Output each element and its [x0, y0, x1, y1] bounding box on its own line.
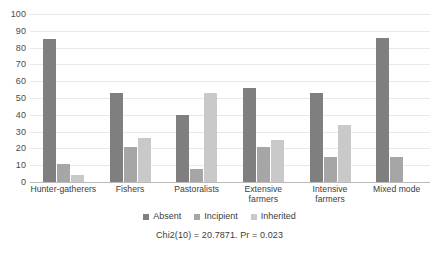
bar: [257, 147, 270, 182]
gridline: 0: [30, 182, 430, 183]
x-axis-tick-label: Hunter-gatherers: [30, 184, 97, 204]
legend-item: Incipient: [194, 212, 238, 221]
bar: [271, 140, 284, 182]
bar-groups: [30, 14, 430, 182]
legend-label: Absent: [153, 212, 181, 221]
legend-item: Absent: [143, 212, 181, 221]
y-axis-tick-label: 90: [16, 26, 26, 35]
bar: [310, 93, 323, 182]
bar: [390, 157, 403, 182]
bar-group: [97, 14, 164, 182]
y-axis-tick-label: 60: [16, 77, 26, 86]
legend-swatch: [251, 214, 257, 220]
bar-group: [297, 14, 364, 182]
y-axis-tick-label: 100: [11, 10, 26, 19]
bar: [243, 88, 256, 182]
x-axis-tick-label: Intensivefarmers: [297, 184, 364, 204]
legend-swatch: [194, 214, 200, 220]
y-axis-tick-label: 40: [16, 110, 26, 119]
x-axis-tick-label: Pastoralists: [163, 184, 230, 204]
bar-group: [30, 14, 97, 182]
bar-chart: 0102030405060708090100 Hunter-gatherersF…: [0, 0, 439, 260]
bar: [338, 125, 351, 182]
y-axis-tick-label: 30: [16, 127, 26, 136]
y-axis-tick-label: 70: [16, 60, 26, 69]
y-axis-tick-label: 50: [16, 94, 26, 103]
chart-annotation: Chi2(10) = 20.7871. Pr = 0.023: [0, 231, 439, 240]
y-axis-tick-label: 20: [16, 144, 26, 153]
bar: [190, 169, 203, 182]
legend-swatch: [143, 214, 149, 220]
bar: [57, 164, 70, 182]
bar: [124, 147, 137, 182]
legend-label: Inherited: [261, 212, 296, 221]
legend-label: Incipient: [204, 212, 238, 221]
bar-group: [363, 14, 430, 182]
bar: [176, 115, 189, 182]
bar: [110, 93, 123, 182]
bar: [43, 39, 56, 182]
y-axis-tick-label: 0: [21, 178, 26, 187]
bar-group: [163, 14, 230, 182]
bar: [71, 175, 84, 182]
legend-item: Inherited: [251, 212, 296, 221]
bar: [138, 138, 151, 182]
bar: [324, 157, 337, 182]
x-axis-tick-label: Extensivefarmers: [230, 184, 297, 204]
chart-legend: AbsentIncipientInherited: [0, 212, 439, 221]
bar: [376, 38, 389, 182]
x-axis-tick-label: Fishers: [97, 184, 164, 204]
y-axis-tick-label: 10: [16, 161, 26, 170]
plot-area: 0102030405060708090100: [30, 14, 430, 182]
bar: [204, 93, 217, 182]
x-axis-tick-label: Mixed mode: [363, 184, 430, 204]
bar-group: [230, 14, 297, 182]
y-axis-tick-label: 80: [16, 43, 26, 52]
x-axis-labels: Hunter-gatherersFishersPastoralistsExten…: [30, 184, 430, 204]
